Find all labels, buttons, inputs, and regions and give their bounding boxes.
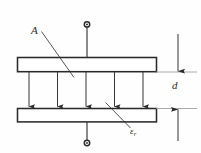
label-plate-separation: d xyxy=(172,80,178,91)
label-plate-area: A xyxy=(31,25,38,36)
bottom-terminal-group xyxy=(84,122,89,146)
epsilon-subscript: r xyxy=(134,130,137,137)
electric-field-lines-group xyxy=(29,72,143,107)
top-plate xyxy=(18,58,157,72)
top-terminal-dot-core-icon xyxy=(86,23,88,25)
label-relative-permittivity: εr xyxy=(130,127,136,136)
bottom-plate xyxy=(18,109,157,122)
top-terminal-group xyxy=(84,22,89,57)
epsilon-symbol: ε xyxy=(130,126,134,136)
capacitor-figure: A d εr xyxy=(0,0,201,153)
bottom-terminal-dot-core-icon xyxy=(86,142,88,144)
capacitor-diagram-canvas xyxy=(0,0,201,153)
